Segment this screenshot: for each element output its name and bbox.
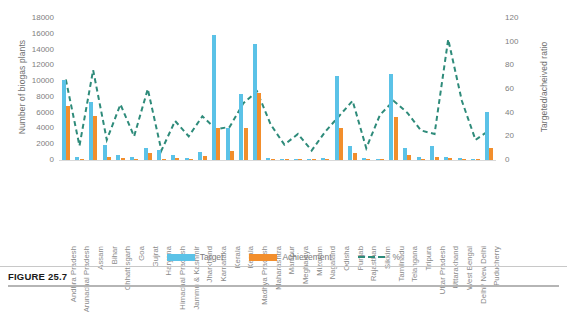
bar-target bbox=[430, 146, 434, 160]
bar-target bbox=[89, 102, 93, 160]
caption-rule-bottom bbox=[8, 285, 559, 287]
bar-target bbox=[253, 44, 257, 160]
bar-achievement bbox=[80, 159, 84, 160]
bar-achievement bbox=[394, 117, 398, 160]
legend-item-percent: % bbox=[358, 252, 401, 262]
bar-target bbox=[376, 159, 380, 160]
bar-target bbox=[335, 76, 339, 160]
y-tick-right: 20 bbox=[505, 132, 514, 140]
bar-target bbox=[348, 146, 352, 160]
y-tick-right: 80 bbox=[505, 61, 514, 69]
chart-legend: Target Achievement % bbox=[0, 248, 567, 266]
bar-achievement bbox=[107, 157, 111, 160]
bar-target bbox=[362, 158, 366, 160]
bar-achievement bbox=[407, 155, 411, 160]
bar-target bbox=[239, 94, 243, 160]
y-tick-left: 16000 bbox=[32, 30, 54, 38]
bar-achievement bbox=[271, 159, 275, 160]
y-tick-left: 14000 bbox=[32, 46, 54, 54]
bar-achievement bbox=[203, 156, 207, 160]
bar-achievement bbox=[216, 128, 220, 160]
bar-achievement bbox=[435, 157, 439, 160]
bar-target bbox=[75, 157, 79, 160]
percent-line-series bbox=[59, 18, 496, 160]
bar-target bbox=[444, 157, 448, 160]
bar-target bbox=[144, 148, 148, 160]
bar-achievement bbox=[366, 159, 370, 160]
y-tick-right: 40 bbox=[505, 109, 514, 117]
bar-achievement bbox=[298, 159, 302, 160]
plot-region bbox=[59, 18, 496, 160]
bar-achievement bbox=[285, 159, 289, 160]
y-tick-left: 0 bbox=[50, 156, 54, 164]
bar-target bbox=[280, 159, 284, 160]
y-axis-right-title: Targeted/acheived ratio bbox=[539, 17, 549, 157]
percent-dashed-line-icon bbox=[358, 253, 388, 261]
bar-achievement bbox=[380, 159, 384, 160]
bar-achievement bbox=[148, 153, 152, 160]
bar-achievement bbox=[134, 159, 138, 160]
y-axis-left-title: Number of biogas plants bbox=[17, 17, 27, 157]
figure-caption-block: FIGURE 25.7 bbox=[0, 266, 567, 288]
bar-achievement bbox=[462, 159, 466, 160]
target-swatch-icon bbox=[167, 254, 195, 261]
bar-target bbox=[116, 155, 120, 160]
bar-achievement bbox=[257, 93, 261, 160]
figure-caption-text: FIGURE 25.7 bbox=[8, 271, 67, 282]
bar-achievement bbox=[448, 158, 452, 160]
bar-achievement bbox=[230, 151, 234, 160]
bar-achievement bbox=[189, 159, 193, 160]
bar-target bbox=[294, 159, 298, 160]
y-tick-right: 60 bbox=[505, 85, 514, 93]
bar-target bbox=[226, 128, 230, 160]
bar-achievement bbox=[421, 159, 425, 160]
legend-item-target: Target bbox=[167, 252, 224, 262]
y-tick-left: 4000 bbox=[36, 124, 54, 132]
x-axis-line bbox=[59, 160, 496, 161]
bar-achievement bbox=[489, 148, 493, 160]
bar-target bbox=[458, 158, 462, 160]
bar-achievement bbox=[175, 158, 179, 160]
bar-target bbox=[417, 157, 421, 160]
bar-target bbox=[157, 150, 161, 160]
y-tick-right: 120 bbox=[505, 14, 518, 22]
y-tick-left: 2000 bbox=[36, 140, 54, 148]
bar-target bbox=[130, 157, 134, 160]
bar-achievement bbox=[93, 116, 97, 160]
bar-target bbox=[103, 145, 107, 160]
bar-achievement bbox=[339, 128, 343, 160]
bar-target bbox=[321, 158, 325, 160]
bar-target bbox=[485, 112, 489, 160]
legend-item-achievement: Achievement bbox=[249, 252, 331, 262]
bar-achievement bbox=[162, 159, 166, 160]
y-tick-left: 18000 bbox=[32, 14, 54, 22]
bar-achievement bbox=[312, 159, 316, 160]
bar-target bbox=[62, 80, 66, 160]
bar-target bbox=[403, 148, 407, 160]
bar-achievement bbox=[325, 159, 329, 160]
bar-target bbox=[389, 74, 393, 160]
bar-target bbox=[212, 35, 216, 160]
bar-target bbox=[171, 155, 175, 160]
y-tick-left: 10000 bbox=[32, 77, 54, 85]
bar-target bbox=[307, 159, 311, 160]
bar-achievement bbox=[476, 159, 480, 160]
legend-label-target: Target bbox=[200, 252, 224, 262]
bar-target bbox=[471, 159, 475, 160]
percent-polyline bbox=[66, 39, 489, 150]
y-tick-left: 6000 bbox=[36, 109, 54, 117]
bar-target bbox=[266, 158, 270, 160]
chart-canvas: Number of biogas plants Targeted/acheive… bbox=[0, 0, 567, 250]
y-tick-right: 0 bbox=[505, 156, 509, 164]
x-axis-category-labels: Andhra PradeshArunachal PradeshAssamBiha… bbox=[59, 162, 496, 248]
bar-target bbox=[198, 152, 202, 160]
y-tick-left: 8000 bbox=[36, 93, 54, 101]
bar-achievement bbox=[66, 106, 70, 160]
bar-achievement bbox=[121, 158, 125, 160]
caption-rule-top bbox=[0, 266, 567, 267]
bar-achievement bbox=[244, 128, 248, 160]
bar-achievement bbox=[353, 153, 357, 160]
y-tick-right: 100 bbox=[505, 38, 518, 46]
y-tick-left: 12000 bbox=[32, 61, 54, 69]
